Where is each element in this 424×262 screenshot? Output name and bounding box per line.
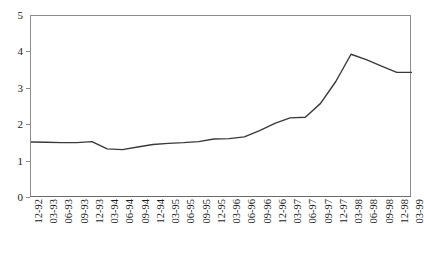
x-tick-label: 12-98 xyxy=(400,199,411,224)
y-tick-label: 0 xyxy=(18,192,24,203)
plot-area xyxy=(30,15,411,197)
x-tick-label: 06-94 xyxy=(125,199,136,224)
data-series-line xyxy=(31,16,412,198)
x-tick-label: 06-96 xyxy=(247,199,258,224)
x-tick-label: 03-94 xyxy=(110,199,121,224)
y-tick-label: 4 xyxy=(18,46,24,57)
x-tick-label: 06-97 xyxy=(308,199,319,224)
y-tick-label: 5 xyxy=(18,10,24,21)
x-tick-label: 03-93 xyxy=(49,199,60,224)
x-tick-label: 03-99 xyxy=(415,199,424,224)
x-tick-label: 12-92 xyxy=(34,199,45,224)
x-tick-label: 03-98 xyxy=(354,199,365,224)
x-tick-label: 12-96 xyxy=(278,199,289,224)
y-axis: 012345 xyxy=(0,0,30,197)
y-tick-label: 3 xyxy=(18,82,24,93)
x-tick-label: 09-98 xyxy=(385,199,396,224)
line-chart: 012345 12-9203-9306-9309-9312-9303-9406-… xyxy=(0,0,424,262)
x-tick-label: 03-95 xyxy=(171,199,182,224)
x-tick-label: 12-95 xyxy=(217,199,228,224)
x-tick-label: 09-94 xyxy=(141,199,152,224)
series-1-polyline xyxy=(31,54,412,149)
y-tick-label: 1 xyxy=(18,155,24,166)
x-tick-label: 12-97 xyxy=(339,199,350,224)
x-tick-label: 06-93 xyxy=(64,199,75,224)
x-tick-label: 09-93 xyxy=(80,199,91,224)
x-tick-label: 09-96 xyxy=(263,199,274,224)
x-tick-label: 03-96 xyxy=(232,199,243,224)
x-tick-label: 09-95 xyxy=(202,199,213,224)
x-axis: 12-9203-9306-9309-9312-9303-9406-9409-94… xyxy=(30,199,411,262)
x-tick-label: 12-94 xyxy=(156,199,167,224)
x-tick-label: 03-97 xyxy=(293,199,304,224)
x-tick-label: 06-95 xyxy=(186,199,197,224)
y-tick-label: 2 xyxy=(18,119,24,130)
x-tick-label: 12-93 xyxy=(95,199,106,224)
y-tick-mark xyxy=(26,197,30,198)
x-tick-label: 09-97 xyxy=(324,199,335,224)
x-tick-label: 06-98 xyxy=(369,199,380,224)
